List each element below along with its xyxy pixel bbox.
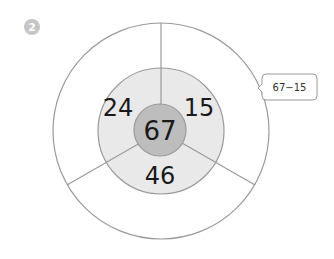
middle-value-upper-right: 15 — [184, 94, 215, 122]
ring-diagram: 2 67 24 15 46 67−15 — [0, 0, 334, 259]
callout-text: 67−15 — [273, 82, 307, 93]
middle-value-upper-left: 24 — [103, 94, 134, 122]
callout: 67−15 — [258, 74, 317, 100]
center-value: 67 — [143, 116, 176, 146]
badge-number: 2 — [28, 21, 36, 34]
middle-value-bottom: 46 — [145, 162, 176, 190]
problem-number-badge: 2 — [24, 19, 40, 35]
